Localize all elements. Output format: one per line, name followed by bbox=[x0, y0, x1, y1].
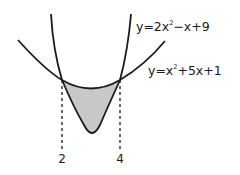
equation-label-wide: y=x2+5x+1 bbox=[148, 63, 222, 78]
x-marker-label-2: 2 bbox=[58, 152, 66, 166]
equation-label-steep: y=2x2−x+9 bbox=[136, 19, 210, 34]
curve-wide-parabola bbox=[18, 40, 165, 89]
x-marker-label-4: 4 bbox=[116, 152, 124, 166]
area-between-curves-diagram: y=2x2−x+9 y=x2+5x+1 2 4 bbox=[0, 0, 240, 175]
